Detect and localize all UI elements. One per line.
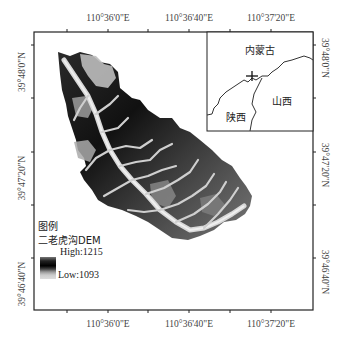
inset-label-shaanxi: 陕西 <box>226 109 246 124</box>
left-axis-label-2: 39°47'20"N <box>17 156 27 201</box>
right-axis-label-2: 39°47'20"N <box>320 143 330 188</box>
top-axis-label-3: 110°37'20"E <box>247 13 295 23</box>
bottom-axis-label-2: 110°36'40"E <box>165 319 213 329</box>
bottom-axis-label-1: 110°36'0"E <box>86 319 129 329</box>
inset-label-inner-mongolia: 内蒙古 <box>245 42 275 57</box>
right-axis-label-3: 39°46'40"N <box>320 250 330 295</box>
top-axis-label-2: 110°36'40"E <box>165 13 213 23</box>
left-axis-label-1: 39°48'0"N <box>17 52 27 92</box>
legend-title: 图例 <box>38 218 58 233</box>
inset-label-shanxi: 山西 <box>272 93 292 108</box>
bottom-axis-label-3: 110°37'20"E <box>247 319 295 329</box>
legend-layer-name: 二老虎沟DEM <box>38 232 101 247</box>
left-axis-label-3: 39°46'40"N <box>17 262 27 307</box>
top-axis-label-1: 110°36'0"E <box>86 13 129 23</box>
map-canvas <box>0 0 346 343</box>
elevation-color-ramp <box>40 257 56 279</box>
right-axis-label-1: 39°48'0"N <box>320 38 330 78</box>
dem-map-figure: 内蒙古 山西 陕西 110°36'0"E 110°36'40"E 110°37'… <box>0 0 346 343</box>
legend-high-label: High:1215 <box>60 246 103 257</box>
legend-low-label: Low:1093 <box>58 269 99 280</box>
